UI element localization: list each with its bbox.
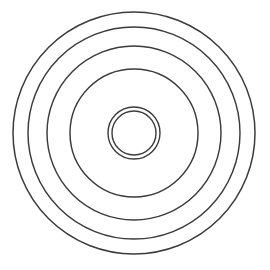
ring-hub-outer [108,107,160,159]
ring-group [13,12,255,254]
ring-hub-inner [112,111,156,155]
figure-canvas [0,0,270,270]
ring-outer-rim-outer-edge [13,12,255,254]
concentric-circles-drawing [0,0,270,270]
ring-outer-rim-inner-edge [28,27,240,239]
ring-mid-outer [47,46,221,220]
ring-mid-inner [70,69,198,197]
